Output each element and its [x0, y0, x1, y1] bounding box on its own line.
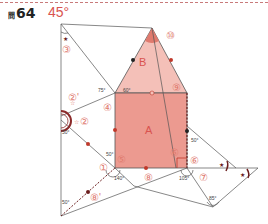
step-8-prime: ⑧'	[90, 192, 101, 203]
angle-50-mid: 50°	[106, 151, 114, 157]
angle-arc-3	[61, 32, 68, 33]
step-7: ⑦	[199, 172, 208, 183]
step-1: ①	[99, 162, 108, 173]
star-marker-right-2: ★	[240, 172, 245, 178]
star-marker-right-1: ★	[219, 162, 224, 168]
angle-105: 105°	[179, 175, 189, 181]
step-2: ②	[80, 116, 89, 127]
tick-mark-2	[247, 169, 249, 178]
tick-mark-1	[226, 161, 228, 171]
step-6b: ⑥	[190, 155, 199, 166]
geometry-diagram: B A ③ ②' ② ④ ① ⑤ ⑥ ⑥ ⑦ ⑧ ⑧' ⑨ ⑩ 60° 75° …	[0, 0, 268, 224]
shape-label-a: A	[145, 124, 153, 136]
angle-140: 140°	[114, 175, 124, 181]
step-3: ③	[62, 44, 71, 55]
step-6a: ⑥	[170, 147, 179, 158]
angle-85: 85°	[209, 195, 217, 201]
angle-75: 75°	[98, 87, 106, 93]
apex-angle-marker	[145, 28, 159, 43]
shape-label-b: B	[139, 56, 146, 68]
angle-50-bottom: 50°	[62, 199, 70, 205]
step-10: ⑩	[166, 30, 175, 41]
star-outline-2: ☆	[74, 119, 79, 125]
angle-60: 60°	[123, 87, 131, 93]
angle-arc-85	[207, 202, 219, 205]
star-marker-top: ★	[63, 36, 68, 42]
star-outline-1: ☆	[70, 100, 75, 106]
angle-50-right: 50°	[191, 137, 199, 143]
step-8: ⑧	[144, 172, 153, 183]
step-9: ⑨	[172, 82, 181, 93]
step-5: ⑤	[117, 154, 126, 165]
angle-50-left: 50°	[62, 129, 70, 135]
step-4: ④	[103, 102, 112, 113]
